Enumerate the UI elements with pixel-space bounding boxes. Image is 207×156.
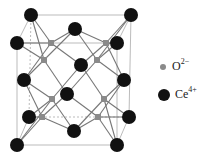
ceo2-crystal-structure	[0, 0, 207, 156]
oxygen-marker-icon	[160, 64, 166, 70]
cerium-label: Ce4+	[175, 87, 197, 102]
cerium-atoms	[10, 8, 138, 152]
cerium-marker-icon	[158, 89, 170, 101]
oxygen-atoms	[39, 40, 109, 120]
legend-cerium: Ce4+	[158, 87, 197, 102]
legend-oxygen: O2−	[160, 59, 189, 74]
oxygen-label: O2−	[172, 59, 189, 74]
